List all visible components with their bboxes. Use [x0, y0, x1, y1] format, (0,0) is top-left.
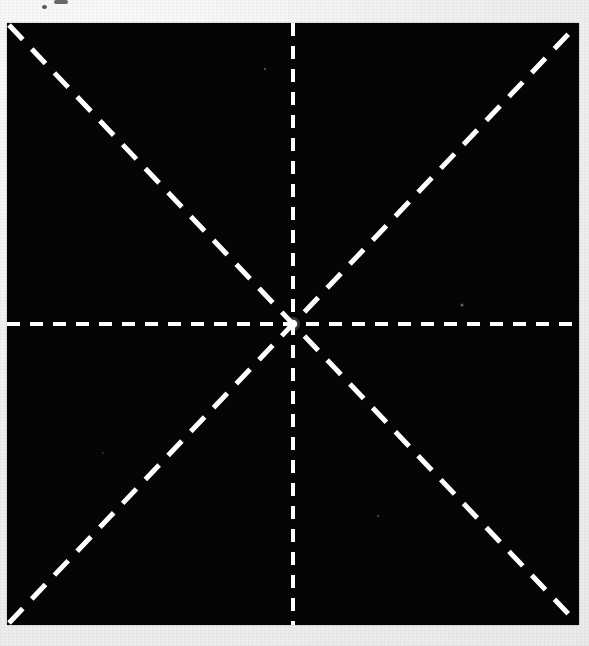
speck-plate-left	[102, 452, 104, 454]
speck-plate-lower	[377, 515, 379, 517]
speck-plate-right	[460, 303, 463, 306]
speck-plate-upper	[264, 68, 266, 70]
center-glow	[286, 317, 300, 331]
top-edge-mark	[54, 0, 68, 4]
figure-root: A solid black rectangular plate on light…	[0, 0, 589, 646]
speck-upper-left-paper	[42, 5, 47, 9]
radial-dashed-lines	[7, 23, 579, 625]
black-plate	[7, 23, 579, 625]
